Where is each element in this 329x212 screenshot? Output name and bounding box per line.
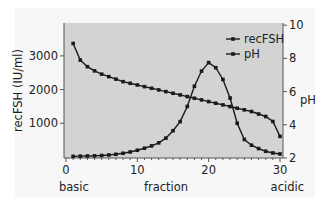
x-tick-label: 0 bbox=[62, 163, 69, 177]
data-point bbox=[78, 154, 82, 158]
y2-tick-label: 2 bbox=[289, 151, 296, 165]
data-point bbox=[107, 75, 111, 79]
data-point bbox=[214, 101, 218, 105]
data-point bbox=[128, 82, 132, 86]
data-point bbox=[243, 138, 247, 142]
data-point bbox=[157, 141, 161, 145]
data-point bbox=[136, 148, 140, 152]
data-point bbox=[93, 69, 97, 73]
data-point bbox=[243, 108, 247, 112]
data-point bbox=[86, 154, 90, 158]
data-point bbox=[185, 105, 189, 109]
data-point bbox=[228, 96, 232, 100]
y-axis-title: recFSH (IU/ml) bbox=[11, 49, 25, 132]
data-point bbox=[200, 98, 204, 102]
data-point bbox=[278, 152, 282, 156]
data-point bbox=[221, 78, 225, 82]
data-point bbox=[93, 154, 97, 158]
data-point bbox=[171, 91, 175, 95]
y2-axis-title: pH bbox=[300, 93, 316, 107]
data-point bbox=[257, 112, 261, 116]
legend-label-pH: pH bbox=[244, 47, 260, 61]
legend-label-recFSH: recFSH bbox=[244, 32, 284, 46]
data-point bbox=[164, 90, 168, 94]
data-point bbox=[250, 110, 254, 114]
data-point bbox=[271, 151, 275, 155]
legend-marker bbox=[231, 52, 235, 56]
data-point bbox=[185, 95, 189, 99]
data-point bbox=[257, 147, 261, 151]
data-point bbox=[71, 155, 75, 159]
data-point bbox=[114, 153, 118, 157]
data-point bbox=[143, 85, 147, 89]
y-tick-label: 3000 bbox=[29, 49, 58, 63]
x-axis-right-label: acidic bbox=[271, 180, 304, 194]
data-point bbox=[221, 103, 225, 107]
data-point bbox=[193, 84, 197, 88]
data-point bbox=[157, 88, 161, 92]
data-point bbox=[278, 135, 282, 139]
y-tick-label: 1000 bbox=[29, 116, 58, 130]
data-point bbox=[235, 106, 239, 110]
x-axis-title: fraction bbox=[144, 180, 188, 194]
y-tick-label: 2000 bbox=[29, 83, 58, 97]
data-point bbox=[121, 151, 125, 155]
data-point bbox=[143, 146, 147, 150]
legend-marker bbox=[231, 37, 235, 41]
y2-tick-label: 8 bbox=[289, 51, 296, 65]
data-point bbox=[136, 83, 140, 87]
data-point bbox=[100, 154, 104, 158]
data-point bbox=[264, 149, 268, 153]
data-point bbox=[121, 80, 125, 84]
data-point bbox=[200, 69, 204, 73]
data-point bbox=[114, 77, 118, 81]
data-point bbox=[86, 65, 90, 69]
data-point bbox=[207, 61, 211, 65]
y2-tick-label: 6 bbox=[289, 85, 296, 99]
data-point bbox=[150, 86, 154, 90]
x-tick-label: 10 bbox=[130, 163, 145, 177]
y2-tick-label: 10 bbox=[289, 18, 304, 32]
x-tick-label: 20 bbox=[201, 163, 216, 177]
data-point bbox=[164, 136, 168, 140]
data-point bbox=[228, 105, 232, 109]
data-point bbox=[128, 150, 132, 154]
data-point bbox=[100, 72, 104, 76]
data-point bbox=[107, 153, 111, 157]
data-point bbox=[207, 100, 211, 104]
y2-tick-label: 4 bbox=[289, 118, 296, 132]
data-point bbox=[193, 96, 197, 100]
dual-axis-line-chart: 1000200030002468100102030 recFSHpH recFS… bbox=[0, 0, 329, 212]
data-point bbox=[250, 143, 254, 147]
data-point bbox=[71, 42, 75, 46]
data-point bbox=[171, 129, 175, 133]
data-point bbox=[78, 58, 82, 62]
x-tick-label: 30 bbox=[273, 163, 288, 177]
data-point bbox=[214, 66, 218, 70]
x-axis-left-label: basic bbox=[59, 180, 89, 194]
data-point bbox=[150, 144, 154, 148]
data-point bbox=[264, 115, 268, 119]
data-point bbox=[178, 120, 182, 124]
data-point bbox=[178, 93, 182, 97]
data-point bbox=[271, 120, 275, 124]
data-point bbox=[235, 122, 239, 126]
